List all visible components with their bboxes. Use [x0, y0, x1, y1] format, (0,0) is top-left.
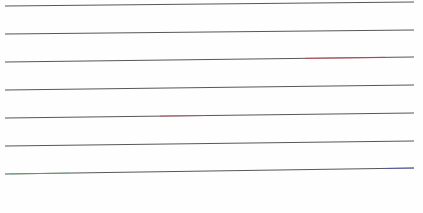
ruled-lines: [0, 0, 423, 213]
ruled-line-tint: [160, 116, 205, 117]
ruled-line-tint: [305, 57, 385, 58]
ruled-line: [5, 85, 414, 90]
ruled-line: [5, 30, 414, 34]
ruled-line: [5, 2, 414, 6]
ruled-paper: [0, 0, 423, 213]
ruled-line: [5, 113, 414, 118]
ruled-line: [5, 141, 414, 146]
ruled-line-tint: [10, 173, 70, 174]
